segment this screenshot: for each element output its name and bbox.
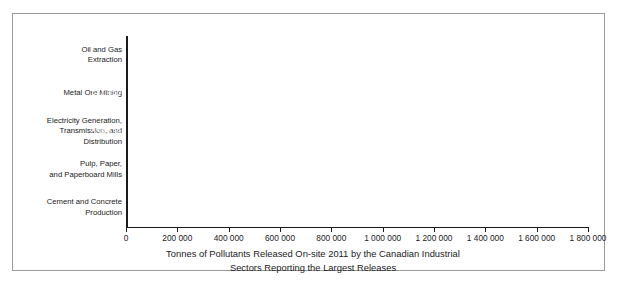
x-axis-tick-label: 200 000 (162, 233, 192, 243)
chart-figure: Oil and Gas ExtractionMetal Ore MiningEl… (0, 0, 618, 283)
x-axis-tick-label: 0 (124, 233, 129, 243)
x-axis-tick-label: 1 000 000 (364, 233, 401, 243)
x-axis-tick-mark (537, 228, 538, 233)
chart-frame-border: Oil and Gas ExtractionMetal Ore MiningEl… (12, 13, 605, 271)
x-axis-tick-mark (280, 228, 281, 233)
bar-value-label: 195 258 (91, 166, 121, 174)
x-axis-tick-label: 1 800 000 (570, 233, 607, 243)
bar-value-label: 577 450 (91, 89, 121, 97)
x-axis-tick-label: 1 200 000 (416, 233, 453, 243)
x-axis-tick-mark (588, 228, 589, 233)
x-axis-tick-mark (126, 228, 127, 233)
x-axis-tick-mark (331, 228, 332, 233)
x-axis-tick-mark (229, 228, 230, 233)
x-axis-tick-label: 1 600 000 (518, 233, 555, 243)
x-axis-tick-mark (383, 228, 384, 233)
x-axis-tick-label: 800 000 (316, 233, 346, 243)
x-axis-tick-label: 400 000 (214, 233, 244, 243)
x-axis-tick-mark (177, 228, 178, 233)
bar-row[interactable]: 577 450 (126, 80, 274, 107)
x-axis-title-line-1: Tonnes of Pollutants Released On-site 20… (43, 247, 583, 261)
bar-row[interactable]: 128 993 (126, 194, 159, 221)
bar-row[interactable]: 195 258 (126, 156, 176, 183)
x-axis-tick-mark (434, 228, 435, 233)
bar-row[interactable]: 558 039 (126, 118, 269, 145)
bar-row[interactable]: 1 631 170 (126, 42, 545, 69)
x-axis-title: Tonnes of Pollutants Released On-site 20… (43, 247, 583, 274)
bar-value-label: 558 039 (91, 128, 121, 136)
x-axis-tick-label: 600 000 (265, 233, 295, 243)
bar-value-label: 1 631 170 (85, 51, 122, 59)
bar-value-label: 128 993 (91, 204, 121, 212)
x-axis-title-line-2: Sectors Reporting the Largest Releases (43, 261, 583, 275)
bars-plot-area: 1 631 170577 450558 039195 258128 993 (126, 36, 588, 227)
x-axis-tick-label: 1 400 000 (467, 233, 504, 243)
x-axis-tick-mark (485, 228, 486, 233)
